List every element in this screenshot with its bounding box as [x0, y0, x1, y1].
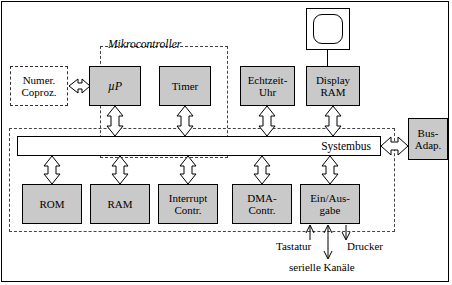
- box-label-cpu: µP: [108, 80, 122, 92]
- box-rom[interactable]: ROM: [22, 184, 82, 224]
- box-ein-ausgabe[interactable]: Ein/Aus- gabe: [300, 184, 360, 224]
- box-dma-controller[interactable]: DMA- Contr.: [232, 184, 292, 224]
- box-label-coprocessor: Numer. Coproz.: [11, 74, 67, 99]
- caption-drucker: Drucker: [347, 240, 383, 252]
- box-timer[interactable]: Timer: [159, 66, 211, 106]
- caption-serielle-kanaele: serielle Kanäle: [289, 261, 355, 273]
- monitor-screen-icon: [313, 14, 343, 44]
- box-label-display-ram: Display RAM: [316, 74, 350, 98]
- box-label-rtc: Echtzeit- Uhr: [248, 74, 288, 98]
- box-label-timer: Timer: [172, 80, 199, 92]
- box-echtzeit-uhr[interactable]: Echtzeit- Uhr: [240, 66, 295, 106]
- box-label-dma-controller: DMA- Contr.: [247, 192, 276, 216]
- box-label-bus-adapter: Bus- Adap.: [415, 127, 442, 151]
- box-label-io: Ein/Aus- gabe: [310, 192, 350, 216]
- box-label-ram: RAM: [107, 198, 132, 210]
- diagram-canvas: Mikrocontroller Numer. Coproz. µP Timer …: [0, 0, 452, 285]
- box-mikroprozessor[interactable]: µP: [89, 66, 141, 106]
- box-ram[interactable]: RAM: [90, 184, 150, 224]
- monitor-cable: [327, 50, 328, 66]
- systembus-bar: Systembus: [17, 136, 381, 156]
- box-label-interrupt-controller: Interrupt Contr.: [169, 192, 207, 216]
- mikrocontroller-caption: Mikrocontroller: [108, 38, 181, 50]
- box-interrupt-controller[interactable]: Interrupt Contr.: [158, 184, 218, 224]
- box-numerischer-coprozessor[interactable]: Numer. Coproz.: [10, 66, 68, 106]
- box-display-ram[interactable]: Display RAM: [306, 66, 360, 106]
- box-bus-adapter[interactable]: Bus- Adap.: [408, 118, 448, 160]
- caption-tastatur: Tastatur: [276, 240, 311, 252]
- systembus-label: Systembus: [321, 140, 371, 152]
- box-label-rom: ROM: [39, 198, 64, 210]
